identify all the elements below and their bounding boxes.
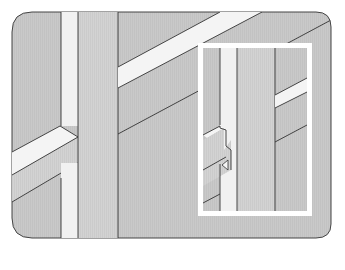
detail-inset xyxy=(198,43,312,216)
framing-illustration xyxy=(0,0,345,270)
